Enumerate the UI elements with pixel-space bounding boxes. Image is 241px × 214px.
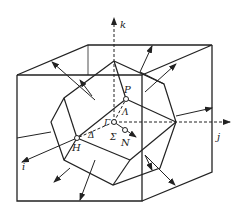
label-Delta: Δ (87, 130, 95, 140)
label-N: N (120, 137, 131, 148)
label-H: H (71, 142, 81, 153)
point-N (123, 128, 128, 133)
point-H (75, 136, 80, 141)
label-P: P (123, 84, 131, 95)
point-P (124, 97, 129, 102)
label-Lambda: Λ (121, 107, 129, 117)
bcc-brillouin-zone-diagram: k j i P Λ Γ Σ N Δ H (0, 0, 241, 214)
axis-label-i: i (22, 161, 25, 172)
label-Gamma: Γ (103, 118, 111, 128)
label-Sigma: Σ (109, 132, 117, 142)
point-Gamma (112, 120, 117, 125)
axis-label-k: k (120, 19, 126, 30)
axis-label-j: j (215, 131, 220, 142)
